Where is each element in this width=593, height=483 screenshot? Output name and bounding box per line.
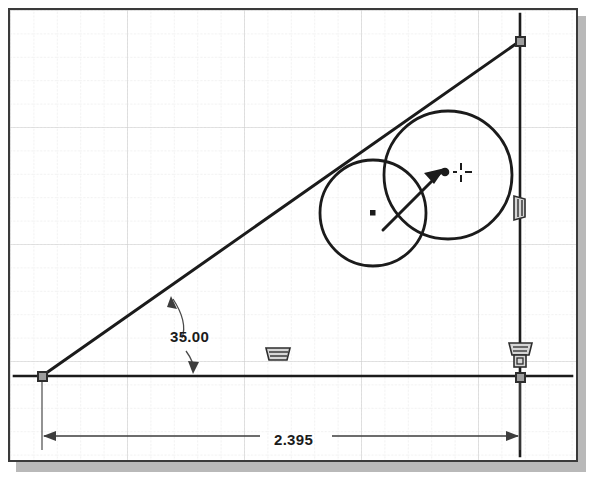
inclined-line[interactable] [42, 41, 520, 376]
endpoint-handle-top-right[interactable] [515, 36, 526, 47]
constraint-horizontal-icon[interactable] [266, 348, 290, 360]
length-dim-arrowhead-right [506, 431, 519, 441]
endpoint-handle-origin[interactable] [37, 371, 48, 382]
crosshair-icon [453, 163, 472, 182]
geometry-layer [10, 10, 576, 460]
angle-dimension-value[interactable]: 35.00 [170, 328, 209, 345]
constraint-coincident-icon[interactable] [514, 355, 526, 367]
center-point-left[interactable] [370, 210, 376, 216]
constraint-vertical-icon[interactable] [514, 196, 525, 220]
cad-sketch-screenshot: 35.00 2.395 [0, 0, 593, 483]
endpoint-handle-bottom-right[interactable] [515, 372, 526, 383]
length-dimension-value[interactable]: 2.395 [274, 431, 313, 448]
constraint-horizontal-corner-icon[interactable] [509, 343, 532, 355]
sketch-canvas[interactable]: 35.00 2.395 [8, 8, 578, 462]
length-dim-arrowhead-left [43, 431, 56, 441]
angle-dim-arrowhead-lower [188, 361, 199, 374]
